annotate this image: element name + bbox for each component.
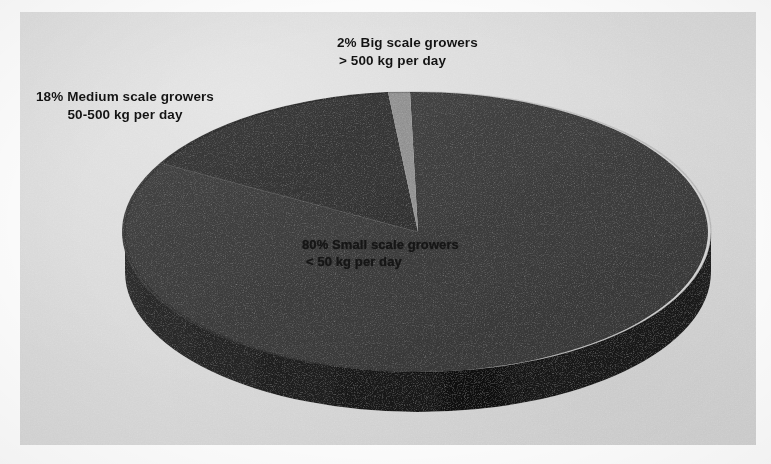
pie-label-medium-scale: 18% Medium scale growers 50-500 kg per d… [36, 88, 214, 123]
pie-label-small-scale-line1: 80% Small scale growers [302, 237, 459, 254]
pie-label-medium-scale-line1: 18% Medium scale growers [36, 88, 214, 106]
pie-label-small-scale-line2: < 50 kg per day [302, 254, 459, 271]
pie-label-big-scale: 2% Big scale growers > 500 kg per day [337, 34, 478, 69]
pie-chart-svg [0, 0, 771, 464]
pie-chart [0, 0, 771, 464]
pie-label-big-scale-line2: > 500 kg per day [337, 52, 478, 70]
pie-label-medium-scale-line2: 50-500 kg per day [36, 106, 214, 124]
pie-label-big-scale-line1: 2% Big scale growers [337, 34, 478, 52]
pie-label-small-scale: 80% Small scale growers < 50 kg per day [302, 237, 459, 271]
chart-canvas: 2% Big scale growers > 500 kg per day 18… [0, 0, 771, 464]
